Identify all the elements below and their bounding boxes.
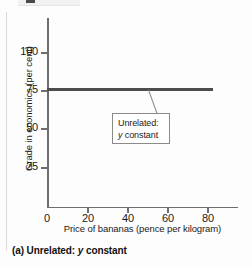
callout-line-2: y constant: [118, 129, 169, 141]
y-axis-tick-100: [41, 52, 47, 54]
y-axis-tick-25: [41, 167, 47, 169]
y-axis-tick-50: [41, 128, 47, 130]
caption-suffix: constant: [86, 245, 127, 256]
caption-text: Unrelated:: [27, 245, 75, 256]
callout-line-1: Unrelated:: [118, 117, 169, 129]
figure-caption: (a) Unrelated: y constant: [12, 245, 127, 256]
callout-variable-y: y: [118, 130, 122, 140]
y-axis-line: [47, 18, 49, 208]
x-axis-line: [47, 207, 238, 209]
callout-annotation: Unrelated: y constant: [112, 113, 170, 144]
caption-variable-y: y: [78, 245, 83, 256]
caption-prefix: (a): [12, 245, 24, 256]
y-axis-title: Grade in economics (per cent): [23, 29, 34, 189]
data-series-line: [47, 88, 213, 91]
figure-container: 100 75 50 25 0 20 40 60 80 Grade in econ…: [0, 0, 252, 269]
x-axis-title: Price of bananas (pence per kilogram): [47, 223, 238, 234]
callout-leader-line: [148, 90, 157, 114]
plot-area: 100 75 50 25 0 20 40 60 80 Grade in econ…: [0, 0, 252, 269]
callout-line-2-rest: constant: [125, 130, 158, 140]
